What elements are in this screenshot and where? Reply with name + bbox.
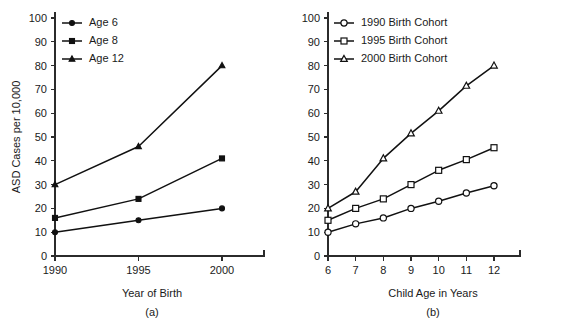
y-tick-label: 90 — [308, 36, 320, 48]
chart-a-y-tick-labels: 0102030405060708090100 — [29, 12, 47, 262]
data-point-filled-square — [220, 156, 225, 161]
chart-b-panel-caption: (b) — [426, 306, 439, 318]
y-tick-label: 60 — [308, 107, 320, 119]
data-point-open-circle — [353, 221, 359, 227]
data-point-open-circle — [325, 229, 331, 235]
data-point-open-square — [491, 145, 497, 151]
data-point-open-square — [325, 217, 331, 223]
data-point-open-triangle — [491, 62, 498, 68]
legend-marker-filled-circle — [70, 21, 75, 26]
legend-label-2: 1995 Birth Cohort — [361, 34, 447, 46]
y-tick-label: 100 — [29, 12, 47, 24]
y-tick-label: 50 — [308, 131, 320, 143]
chart-panel-a: 0102030405060708090100 199019952000 Age … — [0, 0, 281, 322]
chart-a-x-axis-line — [55, 250, 264, 256]
chart-a-panel-caption: (a) — [145, 306, 158, 318]
series-line-3 — [55, 66, 222, 185]
data-point-open-circle — [408, 205, 414, 211]
chart-a-x-tick-labels: 199019952000 — [43, 264, 234, 276]
data-point-open-triangle — [325, 205, 332, 211]
y-tick-label: 100 — [302, 12, 320, 24]
y-tick-label: 0 — [41, 250, 47, 262]
legend-label-3: 2000 Birth Cohort — [361, 52, 447, 64]
x-tick-label: 11 — [461, 264, 472, 276]
y-tick-label: 50 — [35, 131, 47, 143]
x-tick-label: 1990 — [43, 264, 67, 276]
data-point-open-square — [408, 182, 414, 188]
data-point-open-circle — [380, 215, 386, 221]
chart-panel-b: 0102030405060708090100 6789101112 1990 B… — [281, 0, 561, 322]
x-tick-label: 12 — [488, 264, 500, 276]
legend-label-2: Age 8 — [89, 34, 118, 46]
data-point-filled-triangle — [219, 62, 225, 67]
legend-marker-filled-square — [70, 39, 75, 44]
data-point-open-circle — [436, 198, 442, 204]
y-tick-label: 90 — [35, 36, 47, 48]
chart-b-series-group — [325, 62, 498, 235]
x-tick-label: 2000 — [210, 264, 234, 276]
x-tick-label: 8 — [380, 264, 386, 276]
legend-marker-open-circle — [341, 20, 347, 26]
x-tick-label: 1995 — [126, 264, 150, 276]
data-point-filled-square — [136, 196, 141, 201]
y-tick-label: 0 — [314, 250, 320, 262]
y-tick-label: 80 — [308, 60, 320, 72]
y-tick-label: 70 — [35, 83, 47, 95]
y-tick-label: 10 — [35, 226, 47, 238]
data-point-filled-circle — [220, 206, 225, 211]
y-tick-label: 20 — [35, 202, 47, 214]
figure-asd-cases-two-panel: 0102030405060708090100 199019952000 Age … — [0, 0, 561, 322]
chart-b-canvas: 0102030405060708090100 6789101112 1990 B… — [281, 0, 561, 322]
legend-marker-filled-triangle — [69, 56, 75, 61]
chart-a-legend: Age 6Age 8Age 12 — [62, 16, 124, 64]
data-point-open-square — [380, 196, 386, 202]
y-tick-label: 60 — [35, 107, 47, 119]
data-point-open-circle — [463, 190, 469, 196]
chart-b-legend: 1990 Birth Cohort1995 Birth Cohort2000 B… — [334, 16, 447, 64]
y-tick-label: 40 — [308, 155, 320, 167]
data-point-open-square — [463, 157, 469, 163]
data-point-open-triangle — [463, 82, 470, 88]
legend-label-1: Age 6 — [89, 16, 118, 28]
y-tick-label: 70 — [308, 83, 320, 95]
y-tick-label: 30 — [35, 179, 47, 191]
x-tick-label: 10 — [433, 264, 445, 276]
y-tick-label: 80 — [35, 60, 47, 72]
data-point-filled-square — [53, 215, 58, 220]
chart-a-y-axis-title: ASD Cases per 10,000 — [10, 81, 22, 194]
chart-b-x-axis-line — [328, 250, 520, 256]
y-tick-label: 10 — [308, 226, 320, 238]
chart-b-x-tick-labels: 6789101112 — [325, 264, 500, 276]
data-point-open-circle — [491, 183, 497, 189]
legend-marker-open-square — [341, 38, 347, 44]
x-tick-label: 7 — [353, 264, 359, 276]
chart-b-y-tick-labels: 0102030405060708090100 — [302, 12, 320, 262]
x-tick-label: 6 — [325, 264, 331, 276]
chart-a-x-axis-title: Year of Birth — [122, 287, 182, 299]
data-point-filled-circle — [53, 230, 58, 235]
chart-a-canvas: 0102030405060708090100 199019952000 Age … — [0, 0, 281, 322]
chart-b-x-axis-title: Child Age in Years — [388, 287, 478, 299]
y-tick-label: 40 — [35, 155, 47, 167]
y-tick-label: 20 — [308, 202, 320, 214]
series-line-2 — [55, 158, 222, 218]
chart-a-axes — [51, 12, 265, 261]
chart-a-series-group — [52, 62, 225, 234]
data-point-open-square — [436, 167, 442, 173]
data-point-filled-circle — [136, 218, 141, 223]
legend-marker-open-triangle — [341, 55, 348, 61]
data-point-filled-triangle — [52, 181, 58, 186]
y-tick-label: 30 — [308, 179, 320, 191]
legend-label-1: 1990 Birth Cohort — [361, 16, 447, 28]
x-tick-label: 9 — [408, 264, 414, 276]
legend-label-3: Age 12 — [89, 52, 124, 64]
data-point-open-square — [353, 205, 359, 211]
